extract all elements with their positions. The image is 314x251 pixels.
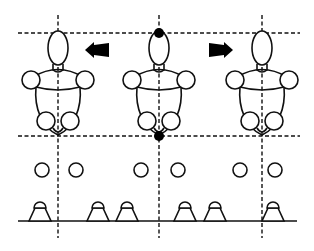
footwork-diagram: [0, 0, 314, 251]
shuttle-cork: [209, 202, 221, 208]
left-arm: [226, 71, 244, 89]
shuttle-skirt: [87, 208, 109, 221]
right-leg: [61, 112, 79, 130]
target-circle: [171, 163, 185, 177]
shuttlecock: [262, 202, 284, 221]
shuttle-skirt: [29, 208, 51, 221]
shuttle-cork: [267, 202, 279, 208]
shuttle-cork: [121, 202, 133, 208]
head: [252, 31, 272, 65]
shuttlecock: [204, 202, 226, 221]
shuttlecock: [116, 202, 138, 221]
left-arm: [123, 71, 141, 89]
player-figures: [22, 28, 298, 141]
right-arm: [177, 71, 195, 89]
shuttle-cork: [179, 202, 191, 208]
shuttle-cork: [92, 202, 104, 208]
shuttlecock: [174, 202, 196, 221]
shuttle-skirt: [262, 208, 284, 221]
bottom-marker-dot: [154, 131, 164, 141]
shuttle-cork: [34, 202, 46, 208]
shuttle-skirt: [174, 208, 196, 221]
left-leg: [37, 112, 55, 130]
left-leg: [241, 112, 259, 130]
top-marker-dot: [154, 28, 164, 38]
diagram-canvas: [0, 0, 314, 251]
shuttlecocks: [29, 202, 284, 221]
right-leg: [162, 112, 180, 130]
arrow-right-icon: [209, 42, 233, 58]
target-circle: [233, 163, 247, 177]
target-circle: [35, 163, 49, 177]
right-arm: [76, 71, 94, 89]
shuttle-skirt: [116, 208, 138, 221]
target-circle: [134, 163, 148, 177]
shuttlecock: [87, 202, 109, 221]
left-arm: [22, 71, 40, 89]
arrow-left-icon: [85, 42, 109, 58]
right-arm: [280, 71, 298, 89]
left-leg: [138, 112, 156, 130]
player-figure-center: [123, 28, 195, 141]
target-circle: [69, 163, 83, 177]
head: [48, 31, 68, 65]
right-leg: [265, 112, 283, 130]
shuttle-skirt: [204, 208, 226, 221]
shuttlecock: [29, 202, 51, 221]
target-circle: [268, 163, 282, 177]
